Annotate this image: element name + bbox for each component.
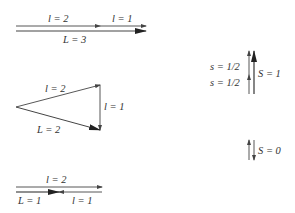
label-s-upper: s = 1/2: [210, 61, 241, 72]
angular-momentum-diagram: l = 2 l = 1 L = 3 l = 2 l = 1 L = 2 l = …: [0, 0, 295, 213]
label-s-lower: s = 1/2: [210, 77, 241, 88]
spin-triplet-panel: s = 1/2 s = 1/2 S = 1: [210, 51, 281, 94]
label-S1: S = 1: [258, 68, 281, 79]
label-L3: L = 3: [62, 34, 86, 45]
label-l2: l = 2: [45, 83, 66, 94]
spin-singlet-panel: S = 0: [249, 140, 282, 160]
triangle-coupling-panel: l = 2 l = 1 L = 2: [16, 83, 125, 135]
label-L1: L = 1: [17, 195, 41, 206]
label-l2: l = 2: [46, 174, 67, 185]
parallel-coupling-panel: l = 2 l = 1 L = 3: [16, 13, 146, 45]
antiparallel-coupling-panel: l = 2 L = 1 l = 1: [16, 174, 102, 206]
label-l1: l = 1: [112, 13, 133, 24]
label-L2: L = 2: [36, 124, 61, 135]
label-l1: l = 1: [72, 195, 93, 206]
label-l2: l = 2: [48, 13, 69, 24]
label-S0: S = 0: [258, 145, 282, 156]
label-l1: l = 1: [104, 101, 125, 112]
